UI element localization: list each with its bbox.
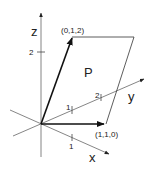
x-axis-label: x — [89, 150, 96, 165]
parallelogram-right-edge — [106, 37, 134, 124]
y-axis — [13, 79, 144, 136]
vector-1-1-0-label: (1,1,0) — [95, 130, 118, 139]
diagram-canvas: z 2 1 x 1 2 y (0,1,2) (1,1,0) P — [0, 0, 153, 169]
z-axis-label: z — [31, 24, 38, 39]
vector-0-1-2-label: (0,1,2) — [61, 26, 84, 35]
y-tick-2-label: 2 — [95, 91, 100, 100]
parallelogram-diagram: z 2 1 x 1 2 y (0,1,2) (1,1,0) P — [0, 0, 153, 169]
region-label-P: P — [84, 65, 93, 80]
y-axis-label: y — [128, 89, 135, 104]
y-tick-1-label: 1 — [66, 103, 71, 112]
z-tick-2-label: 2 — [29, 48, 34, 57]
x-tick-1-label: 1 — [69, 142, 74, 151]
